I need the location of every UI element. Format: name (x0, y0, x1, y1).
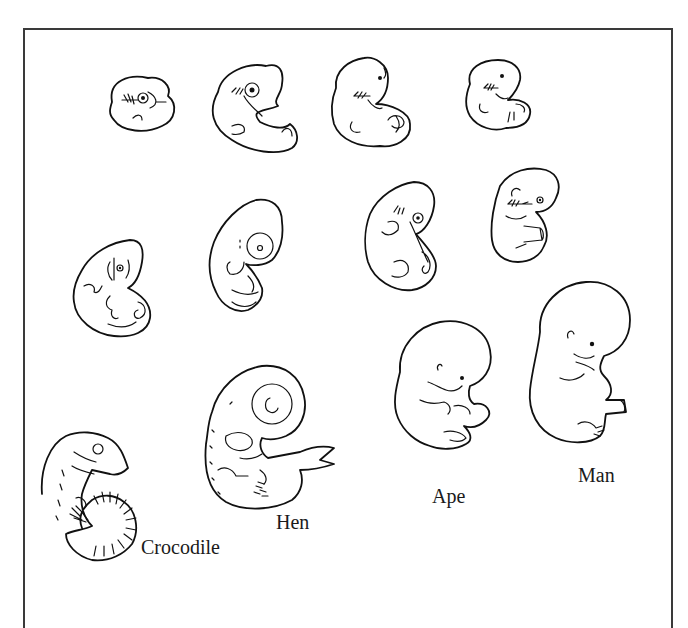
embryo-ape-late (395, 321, 491, 449)
label-hen: Hen (276, 512, 309, 532)
embryo-crocodile-late (42, 432, 136, 560)
label-ape: Ape (432, 486, 465, 506)
embryo-hen-early (213, 65, 297, 152)
embryo-man-late (530, 282, 630, 442)
embryo-ape-middle (365, 182, 436, 290)
label-crocodile: Crocodile (141, 537, 220, 557)
embryo-crocodile-early (110, 77, 174, 131)
embryo-ape-early (332, 58, 410, 147)
embryo-hen-late (205, 366, 334, 509)
embryo-hen-middle (210, 200, 283, 311)
embryo-man-early (466, 60, 530, 130)
embryo-crocodile-middle (73, 240, 150, 336)
embryo-man-middle (491, 169, 558, 262)
label-man: Man (578, 465, 615, 485)
